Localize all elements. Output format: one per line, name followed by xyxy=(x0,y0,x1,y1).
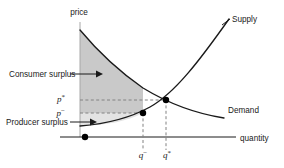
equilibrium-dot xyxy=(163,97,169,103)
consumer-surplus-label: Consumer surplus xyxy=(9,70,75,79)
q-bar-tick-label: q− xyxy=(139,149,148,161)
supply-curve-label: Supply xyxy=(232,15,258,24)
p-bar-tick-label: p− xyxy=(56,107,66,119)
producer-surplus-label: Producer surplus xyxy=(6,118,68,127)
restricted-quantity-dot xyxy=(140,110,146,116)
origin-dot xyxy=(82,134,88,140)
consumer-surplus-region xyxy=(80,30,143,113)
q-star-tick-label: q* xyxy=(163,149,172,161)
supply-demand-figure: price quantity Supply Demand Consumer su… xyxy=(0,0,284,168)
quantity-axis-label: quantity xyxy=(240,134,270,143)
demand-curve-label: Demand xyxy=(228,106,259,115)
p-star-tick-label: p* xyxy=(56,93,66,105)
price-axis-label: price xyxy=(70,8,88,17)
figure-canvas: price quantity Supply Demand Consumer su… xyxy=(0,0,284,168)
